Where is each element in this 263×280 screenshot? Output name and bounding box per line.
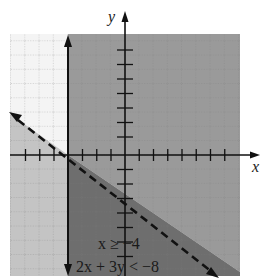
- y-axis-label: y: [106, 8, 116, 26]
- x-axis-label: x: [251, 158, 259, 175]
- y-axis-arrow-icon: [122, 11, 129, 22]
- inequality-graph: y x x ≥ −4 2x + 3y < −8: [0, 0, 263, 280]
- inequality-label-2: 2x + 3y < −8: [76, 258, 159, 276]
- inequality-label-1: x ≥ −4: [98, 235, 140, 252]
